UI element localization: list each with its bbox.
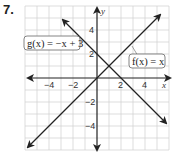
coordinate-plane: x y −4 −2 2 4 4 2 −2 −4 g(x) = −x + 3 f(… bbox=[0, 0, 176, 156]
tick-x-4: 4 bbox=[142, 80, 147, 90]
tick-y-4: 4 bbox=[89, 25, 94, 35]
label-g: g(x) = −x + 3 bbox=[24, 36, 83, 50]
line-f bbox=[97, 15, 160, 78]
svg-text:f(x) = x: f(x) = x bbox=[132, 56, 165, 68]
tick-x-2: 2 bbox=[118, 80, 123, 90]
label-f: f(x) = x bbox=[129, 46, 165, 68]
x-axis-label: x bbox=[161, 80, 166, 90]
y-axis-label: y bbox=[100, 6, 105, 16]
tick-y-neg4: −4 bbox=[85, 121, 95, 131]
tick-y-neg2: −2 bbox=[85, 97, 95, 107]
tick-x-neg2: −2 bbox=[68, 80, 78, 90]
tick-x-neg4: −4 bbox=[44, 80, 54, 90]
svg-text:g(x) = −x + 3: g(x) = −x + 3 bbox=[27, 38, 83, 50]
